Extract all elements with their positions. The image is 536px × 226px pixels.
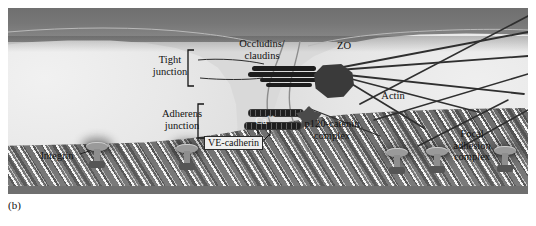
label-integrin: Integrin bbox=[32, 150, 82, 162]
integrin-foot bbox=[89, 161, 105, 168]
label-tight-junction: Tight junction bbox=[144, 54, 196, 77]
focal-adhesion-receptor-2 bbox=[386, 148, 408, 174]
label-zo: ZO bbox=[332, 40, 356, 52]
leader-occludins-lower bbox=[200, 78, 263, 80]
label-calcium: Ca++ bbox=[254, 112, 276, 126]
receptor-foot bbox=[497, 165, 513, 172]
leader-ve-cadherin bbox=[264, 134, 270, 140]
label-focal-adhesion: Focal adhesion complex bbox=[440, 128, 504, 163]
receptor-foot bbox=[429, 166, 445, 173]
figure-endothelial-junction: Tight junction Adherens junction Occludi… bbox=[0, 0, 536, 226]
label-p120-catenin: p120-catenin complex bbox=[292, 118, 372, 141]
occludin-bar-1 bbox=[252, 66, 316, 71]
receptor-foot bbox=[389, 167, 405, 174]
integrin-receptor bbox=[86, 142, 108, 168]
claudin-bar-1 bbox=[260, 78, 318, 82]
label-adherens-junction: Adherens junction bbox=[154, 108, 210, 131]
label-actin: Actin bbox=[376, 90, 410, 102]
receptor-foot bbox=[179, 163, 195, 170]
focal-adhesion-receptor-1 bbox=[176, 144, 198, 170]
calcium-charge: ++ bbox=[267, 113, 275, 121]
calcium-symbol: Ca bbox=[255, 115, 267, 126]
figure-caption: (b) bbox=[8, 199, 21, 211]
diagram-panel: Tight junction Adherens junction Occludi… bbox=[8, 8, 528, 194]
claudin-bar-2 bbox=[266, 83, 312, 87]
label-occludins-claudins: Occludins/ claudins bbox=[224, 38, 300, 61]
occludin-bar-2 bbox=[248, 72, 320, 77]
label-ve-cadherin: VE-cadherin bbox=[204, 136, 263, 150]
